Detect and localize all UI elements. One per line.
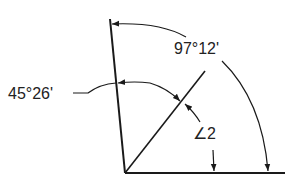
angle-two-label: ∠2: [193, 126, 216, 142]
angle-diagram: 97°12' 45°26' ∠2: [0, 0, 287, 191]
small-angle-arc-left: [118, 82, 150, 83]
small-angle-leader: [73, 83, 116, 93]
angle-two-arrow-upper: [185, 104, 200, 122]
diagonal-ray: [125, 71, 205, 173]
large-angle-arc-top: [112, 24, 186, 37]
small-angle-arc-right: [150, 83, 180, 101]
angle-two-arrow-lower: [213, 150, 214, 171]
large-angle-label: 97°12': [174, 41, 219, 57]
small-angle-label: 45°26': [8, 86, 53, 102]
upper-ray: [110, 19, 125, 173]
large-angle-arc-bottom: [222, 61, 268, 171]
